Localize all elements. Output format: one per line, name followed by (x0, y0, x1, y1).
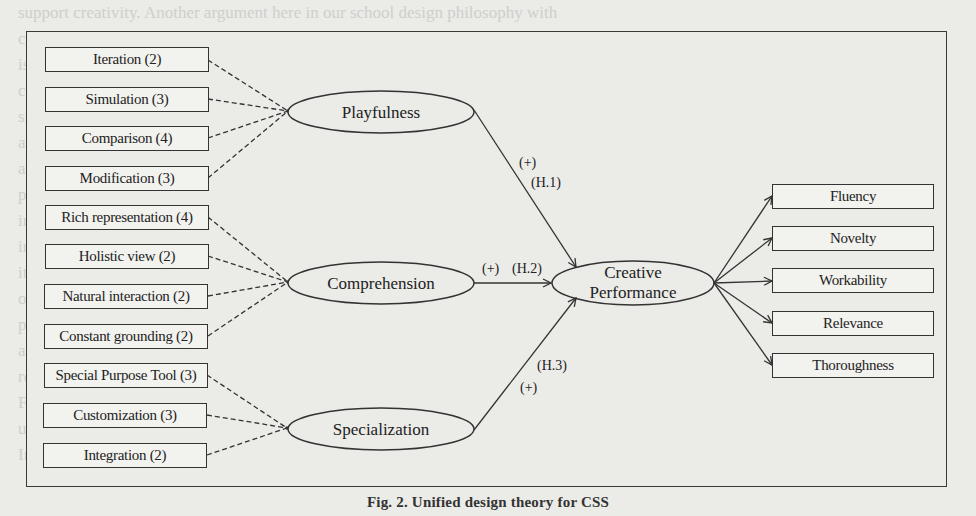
indicator-label: Constant grounding (2) (59, 328, 192, 345)
dashed-link (208, 282, 288, 336)
dimension-label: Fluency (830, 188, 876, 205)
dimension-label: Thoroughness (812, 357, 893, 374)
dimension-label: Workability (819, 272, 887, 289)
construct-specialization: Specialization (333, 420, 429, 439)
dimension-thoroughness: Thoroughness (772, 353, 934, 378)
h1-sign: (+) (519, 155, 536, 171)
construct-creative-performance: Creative Performance (590, 263, 677, 303)
indicator-label: Comparison (4) (82, 130, 172, 147)
indicator-label: Modification (3) (80, 170, 175, 187)
dashed-link (207, 428, 287, 455)
dashed-link (207, 415, 287, 428)
indicator-constant-grounding: Constant grounding (2) (44, 324, 208, 349)
indicator-holistic-view: Holistic view (2) (45, 244, 209, 269)
indicator-label: Rich representation (4) (61, 209, 192, 226)
outcome-label-line2: Performance (590, 283, 677, 303)
indicator-natural-interaction: Natural interaction (2) (44, 284, 208, 309)
h2-sign: (+) (482, 261, 499, 277)
dashed-link (208, 99, 288, 111)
indicator-rich-representation: Rich representation (4) (45, 205, 209, 230)
dashed-link (208, 111, 288, 138)
h3-label: (H.3) (537, 358, 567, 374)
dimension-label: Novelty (830, 230, 876, 247)
dimension-workability: Workability (772, 268, 934, 293)
dimension-relevance: Relevance (772, 311, 934, 336)
dimension-novelty: Novelty (772, 226, 934, 251)
indicator-label: Natural interaction (2) (62, 288, 189, 305)
dashed-link (208, 60, 288, 111)
thoroughness-arrow (714, 283, 772, 365)
construct-label: Playfulness (342, 103, 420, 122)
indicator-label: Special Purpose Tool (3) (55, 367, 196, 384)
workability-arrow (714, 281, 772, 283)
indicator-special-purpose-tool: Special Purpose Tool (3) (44, 363, 208, 388)
outcome-label-line1: Creative (590, 263, 677, 283)
construct-label: Specialization (333, 420, 429, 439)
indicator-label: Iteration (2) (93, 51, 161, 68)
indicator-label: Integration (2) (84, 447, 167, 464)
dashed-link (208, 217, 288, 282)
indicator-label: Simulation (3) (86, 91, 169, 108)
h2-label: (H.2) (512, 261, 542, 277)
indicator-simulation: Simulation (3) (45, 87, 209, 112)
indicator-label: Holistic view (2) (79, 248, 176, 265)
dashed-link (208, 256, 288, 282)
indicator-comparison: Comparison (4) (45, 126, 209, 151)
construct-label: Comprehension (327, 274, 435, 293)
fluency-arrow (714, 196, 772, 283)
dimension-label: Relevance (823, 315, 883, 332)
dimension-fluency: Fluency (772, 184, 934, 209)
h1-label: (H.1) (531, 175, 561, 191)
indicator-modification: Modification (3) (45, 166, 209, 191)
indicator-label: Customization (3) (73, 407, 177, 424)
figure-caption: Fig. 2. Unified design theory for CSS (0, 494, 976, 511)
relevance-arrow (714, 283, 772, 323)
indicator-integration: Integration (2) (43, 443, 207, 468)
novelty-arrow (714, 238, 772, 283)
h3-sign: (+) (520, 380, 537, 396)
dashed-link (208, 282, 288, 296)
construct-playfulness: Playfulness (342, 103, 420, 122)
dashed-link (207, 375, 287, 428)
indicator-iteration: Iteration (2) (45, 47, 209, 72)
dashed-link (208, 111, 288, 178)
construct-comprehension: Comprehension (327, 274, 435, 293)
indicator-customization: Customization (3) (43, 403, 207, 428)
